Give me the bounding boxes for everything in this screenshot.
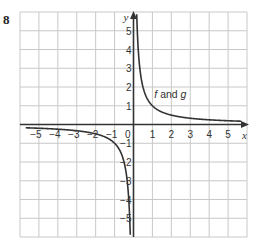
y-tick-label: −1: [120, 138, 132, 149]
curve-label: f and g: [154, 88, 186, 100]
x-axis-label: x: [241, 129, 247, 141]
y-tick-label: 3: [126, 63, 132, 74]
x-tick-label: 5: [225, 129, 231, 140]
origin-label: 0: [125, 129, 131, 140]
x-tick-label: 3: [187, 129, 193, 140]
x-tick-label: −5: [30, 129, 42, 140]
x-tick-label: 2: [169, 129, 175, 140]
function-graph: xy−5−4−3−2−11234554321−1−2−3−4−50f and g: [0, 0, 259, 245]
x-tick-label: 1: [150, 129, 156, 140]
y-tick-label: 4: [126, 45, 132, 56]
y-tick-label: 5: [126, 26, 132, 37]
y-tick-label: 1: [126, 101, 132, 112]
y-axis-label: y: [123, 11, 129, 23]
x-tick-label: −4: [49, 129, 61, 140]
y-tick-label: −4: [120, 195, 132, 206]
x-tick-label: 4: [206, 129, 212, 140]
y-tick-label: −2: [120, 157, 132, 168]
y-tick-label: 2: [126, 82, 132, 93]
x-axis-arrow-icon: [241, 121, 249, 128]
